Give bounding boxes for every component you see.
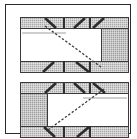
panel-bottom-chord-band-top bbox=[21, 83, 128, 94]
panel-top-web-rule bbox=[22, 32, 66, 34]
panel-top-stub-bottom-2 bbox=[89, 61, 91, 72]
panel-top-chord-band-bottom bbox=[21, 61, 128, 72]
figure-outer-frame bbox=[5, 4, 131, 134]
panel-bottom-end-block-left bbox=[21, 94, 48, 126]
panel-bottom-main-diagonal bbox=[48, 89, 104, 130]
panel-top-stub-top-2 bbox=[89, 18, 91, 29]
panel-bottom-chord-band-bottom bbox=[21, 126, 128, 137]
panel-top-stub-bottom-1 bbox=[63, 61, 65, 72]
figure-root: Two-panel truss cross-section diagram bbox=[0, 0, 137, 139]
panel-bottom bbox=[20, 82, 129, 138]
panel-bottom-stub-bottom-1 bbox=[63, 126, 65, 137]
panel-bottom-web-rule bbox=[83, 97, 127, 99]
panel-bottom-stub-bottom-2 bbox=[89, 126, 91, 137]
panel-bottom-stub-top-1 bbox=[63, 83, 65, 94]
panel-top-chord-band-top bbox=[21, 18, 128, 29]
panel-top-stub-top-1 bbox=[63, 18, 65, 29]
panel-top-end-block-right bbox=[101, 29, 128, 61]
panel-top bbox=[20, 17, 129, 73]
panel-bottom-stub-top-2 bbox=[89, 83, 91, 94]
